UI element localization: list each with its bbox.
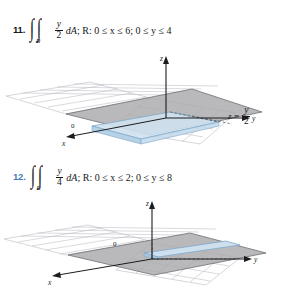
- integral-region-subscript: R: [36, 37, 40, 45]
- equals-sign: =: [234, 111, 240, 121]
- origin-label: 0: [113, 240, 117, 248]
- x-axis-arrowhead: [52, 272, 61, 278]
- textbook-exercise-page: 11. ∫ ∫ R y 2 dA; R: 0 ≤ x ≤ 6; 0 ≤ y ≤ …: [0, 0, 305, 295]
- plane-equation-lhs: z: [228, 111, 232, 121]
- problem-11-figure: z y x 0 z = y 2: [0, 50, 305, 155]
- problem-11-statement: 11. ∫ ∫ R y 2 dA; R: 0 ≤ x ≤ 6; 0 ≤ y ≤ …: [0, 16, 305, 50]
- problem-11: 11. ∫ ∫ R y 2 dA; R: 0 ≤ x ≤ 6; 0 ≤ y ≤ …: [0, 16, 305, 155]
- problem-11-integrand: y 2: [55, 16, 63, 41]
- integrand-denominator: 4: [56, 177, 64, 188]
- problem-12-double-integral-symbol: ∫ ∫ R: [31, 163, 55, 197]
- integrand-numerator: y: [56, 167, 63, 177]
- plane-equation-fraction: y 2: [243, 106, 251, 127]
- problem-12: 12. ∫ ∫ R y 4 dA; R: 0 ≤ x ≤ 2; 0 ≤ y ≤ …: [0, 163, 305, 289]
- plane-denominator: 2: [243, 116, 251, 127]
- problem-11-double-integral-symbol: ∫ ∫ R: [30, 16, 54, 50]
- problem-12-number: 12.: [13, 163, 26, 182]
- problem-11-number: 11.: [13, 16, 25, 35]
- y-axis-label: y: [253, 255, 258, 264]
- z-axis-arrowhead: [149, 201, 155, 209]
- problem-12-integrand: y 4: [56, 163, 64, 188]
- plane-numerator: y: [243, 106, 250, 116]
- differential-element: dA: [66, 172, 77, 183]
- z-axis-label: z: [159, 54, 163, 63]
- integrand-numerator: y: [55, 20, 62, 30]
- problem-12-statement: 12. ∫ ∫ R y 4 dA; R: 0 ≤ x ≤ 2; 0 ≤ y ≤ …: [0, 163, 305, 197]
- z-axis-label: z: [145, 199, 149, 208]
- integral-region-subscript: R: [37, 184, 41, 192]
- integrand-denominator: 2: [55, 30, 63, 41]
- x-axis-arrowhead: [66, 133, 75, 139]
- figure-11-graphic: z y x 0: [0, 50, 305, 155]
- problem-12-region-text: dA; R: 0 ≤ x ≤ 2; 0 ≤ y ≤ 8: [66, 163, 172, 183]
- y-axis-label: y: [251, 114, 256, 123]
- region-bounds: ; R: 0 ≤ x ≤ 2; 0 ≤ y ≤ 8: [77, 172, 171, 183]
- problem-12-figure: z y x 0 z = y 4: [0, 197, 305, 289]
- x-axis-label: x: [47, 278, 52, 287]
- figure-12-graphic: z y x 0: [0, 197, 305, 289]
- integral-sign-outer: ∫: [31, 162, 35, 187]
- differential-element: dA: [66, 25, 77, 36]
- region-bounds: ; R: 0 ≤ x ≤ 6; 0 ≤ y ≤ 4: [77, 25, 171, 36]
- plane-equation-label-11: z = y 2: [228, 106, 251, 127]
- x-axis-label: x: [61, 139, 66, 148]
- origin-label: 0: [71, 122, 75, 130]
- problem-11-region-text: dA; R: 0 ≤ x ≤ 6; 0 ≤ y ≤ 4: [66, 16, 172, 36]
- z-axis-arrowhead: [163, 56, 169, 64]
- integral-sign-outer: ∫: [30, 15, 34, 40]
